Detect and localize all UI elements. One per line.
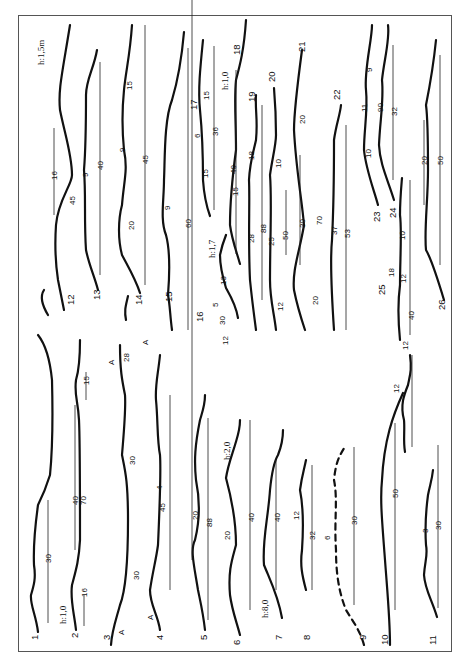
profile-7-curve: [264, 430, 283, 618]
label-8: 8: [301, 635, 312, 640]
svg-text:53: 53: [343, 229, 352, 238]
label-15: 15: [163, 291, 174, 302]
svg-text:6: 6: [323, 535, 332, 540]
height-scale-1-5: h:1,5m: [36, 40, 46, 65]
label-2: 2: [69, 633, 80, 638]
svg-text:50: 50: [281, 231, 290, 240]
measurement-labels: 30 16 40 70 15 30 30 28 45 4 20 88 20 40…: [44, 67, 445, 597]
marker-a-group: A A A A: [107, 339, 155, 635]
svg-text:30: 30: [128, 456, 137, 465]
svg-text:30: 30: [298, 219, 307, 228]
svg-text:30: 30: [218, 316, 227, 325]
profile-11-curve: [424, 470, 437, 617]
svg-text:12: 12: [221, 336, 230, 345]
svg-text:15: 15: [202, 91, 211, 100]
svg-text:9: 9: [81, 172, 90, 177]
svg-text:40: 40: [229, 165, 238, 174]
label-21: 21: [296, 41, 307, 52]
label-1: 1: [29, 635, 40, 640]
profile-19-curve: [249, 95, 257, 330]
profile-3-curve: [111, 345, 128, 645]
svg-text:32: 32: [308, 531, 317, 540]
label-10: 10: [379, 634, 390, 645]
svg-text:15: 15: [231, 187, 240, 196]
svg-text:45: 45: [141, 155, 150, 164]
svg-text:20: 20: [298, 115, 307, 124]
svg-text:36: 36: [211, 127, 220, 136]
svg-text:9: 9: [163, 205, 172, 210]
profile-22-curve: [331, 105, 341, 330]
label-6: 6: [231, 640, 242, 645]
profile-21-curve: [294, 50, 305, 330]
svg-text:9: 9: [365, 67, 374, 72]
svg-text:45: 45: [68, 196, 77, 205]
svg-text:37: 37: [330, 226, 339, 235]
svg-text:45: 45: [158, 503, 167, 512]
profile-9-curve: [334, 445, 364, 645]
svg-text:40: 40: [96, 161, 105, 170]
label-12: 12: [65, 294, 76, 305]
label-5: 5: [198, 635, 209, 640]
svg-text:50: 50: [391, 489, 400, 498]
svg-text:10: 10: [364, 149, 373, 158]
label-20: 20: [266, 71, 277, 82]
svg-text:15: 15: [201, 169, 210, 178]
label-23: 23: [371, 211, 382, 222]
svg-text:12: 12: [392, 384, 401, 393]
svg-text:3: 3: [421, 528, 430, 533]
label-19: 19: [246, 91, 257, 102]
marker-a-3: A: [117, 629, 126, 635]
profile-17-curve: [199, 40, 210, 216]
svg-text:40: 40: [407, 311, 416, 320]
svg-text:40: 40: [247, 513, 256, 522]
height-scale-1-0-a: h:1,0: [58, 605, 68, 624]
profile-8-curve: [300, 460, 306, 590]
svg-text:16: 16: [80, 588, 89, 597]
svg-text:20: 20: [223, 531, 232, 540]
svg-text:70: 70: [79, 496, 88, 505]
marker-a-4b: A: [141, 339, 150, 345]
profile-18-curve: [230, 20, 246, 264]
profile-14-curve: [119, 25, 140, 293]
profile-4-curve: [150, 355, 160, 630]
height-scale-8-0: h:8,0: [260, 599, 270, 618]
profile-12-curve: [55, 25, 72, 310]
svg-text:20: 20: [127, 221, 136, 230]
label-24: 24: [387, 207, 398, 218]
label-16: 16: [194, 311, 205, 322]
height-scale-1-7: h:1,7: [207, 239, 217, 258]
svg-text:13: 13: [219, 276, 228, 285]
svg-text:15: 15: [82, 376, 91, 385]
svg-text:12: 12: [292, 511, 301, 520]
svg-text:30: 30: [44, 554, 53, 563]
profile-1-curve: [31, 335, 53, 632]
svg-text:12: 12: [401, 341, 410, 350]
profile-10-curve: [381, 393, 403, 645]
label-17: 17: [188, 99, 199, 110]
svg-text:88: 88: [205, 518, 214, 527]
svg-text:20: 20: [191, 511, 200, 520]
svg-text:18: 18: [247, 151, 256, 160]
svg-text:10: 10: [274, 159, 283, 168]
profile-23-curve: [364, 25, 378, 205]
svg-text:30: 30: [434, 521, 443, 530]
profile-diagram: 1 2 3 4 5 6 7 8 9 10 11 12 13 14 15 16 1…: [0, 0, 469, 669]
svg-text:16: 16: [50, 171, 59, 180]
svg-text:5: 5: [211, 302, 220, 307]
svg-text:28: 28: [247, 234, 256, 243]
svg-text:28: 28: [122, 353, 131, 362]
svg-text:12: 12: [276, 302, 285, 311]
svg-text:4: 4: [155, 485, 164, 490]
profile-15-curve: [163, 32, 184, 330]
label-4: 4: [154, 635, 165, 640]
profile-20-curve: [270, 88, 276, 330]
profile-2-curve: [71, 340, 80, 630]
svg-text:18: 18: [387, 268, 396, 277]
svg-text:25: 25: [267, 237, 276, 246]
svg-text:9: 9: [118, 147, 127, 152]
svg-text:11: 11: [360, 103, 369, 112]
height-scale-2-0: h:2,0: [222, 441, 232, 460]
svg-text:20: 20: [420, 156, 429, 165]
svg-text:90: 90: [376, 103, 385, 112]
svg-text:10: 10: [398, 231, 407, 240]
